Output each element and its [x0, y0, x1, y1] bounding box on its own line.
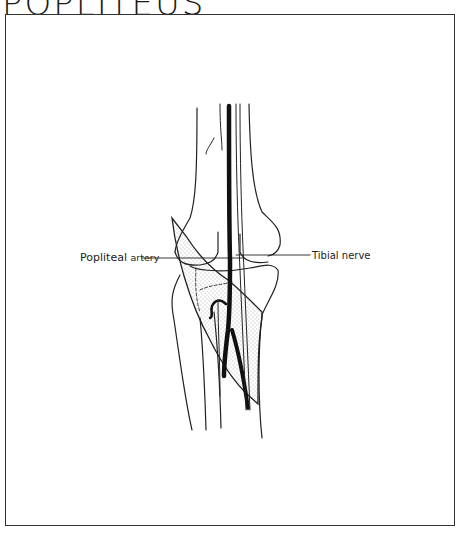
- popliteal-vein: [206, 104, 222, 154]
- fibula-left: [200, 318, 206, 430]
- tibia-left-edge: [172, 275, 192, 430]
- femur-right-edge: [249, 104, 280, 256]
- knee-anatomy-illustration: [0, 0, 463, 534]
- popliteal-label-main: Popliteal: [80, 251, 127, 264]
- popliteal-artery-label: Popliteal artery: [80, 251, 159, 264]
- tibial-nerve-label: Tibial nerve: [312, 250, 370, 261]
- popliteal-label-sub: artery: [130, 252, 159, 263]
